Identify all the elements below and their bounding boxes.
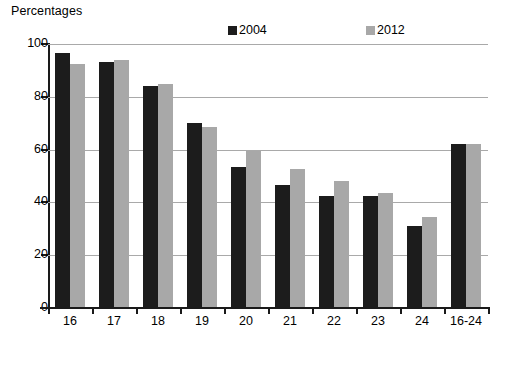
- bar-2012-16: [70, 64, 85, 308]
- chart-legend: 20042012: [228, 22, 438, 38]
- x-tick-mark: [48, 307, 50, 314]
- bar-2012-22: [334, 181, 349, 308]
- x-tick-label: 16-24: [436, 315, 496, 328]
- legend-item-2012: 2012: [366, 22, 405, 38]
- bar-2012-21: [290, 169, 305, 308]
- y-tick-label: 20: [14, 248, 48, 260]
- bar-2004-24: [407, 226, 422, 308]
- bar-2004-19: [187, 123, 202, 308]
- legend-swatch-icon: [366, 26, 375, 35]
- bar-2004-21: [275, 185, 290, 308]
- bar-2004-16-24: [451, 144, 466, 308]
- y-tick-label: 100: [14, 37, 48, 49]
- bar-2004-22: [319, 196, 334, 308]
- y-axis: 020406080100: [0, 0, 48, 365]
- x-tick-mark: [356, 307, 358, 314]
- x-tick-mark: [400, 307, 402, 314]
- x-tick-mark: [224, 307, 226, 314]
- plot-area: [48, 44, 488, 308]
- bar-2004-23: [363, 196, 378, 308]
- bar-2004-20: [231, 167, 246, 308]
- legend-swatch-icon: [228, 26, 237, 35]
- bar-2004-16: [55, 53, 70, 308]
- bar-2012-18: [158, 84, 173, 308]
- bar-2012-19: [202, 127, 217, 308]
- x-tick-mark: [268, 307, 270, 314]
- x-tick-mark: [92, 307, 94, 314]
- y-tick-label: 80: [14, 90, 48, 102]
- x-tick-mark: [180, 307, 182, 314]
- legend-item-2004: 2004: [228, 22, 267, 38]
- x-tick-mark: [136, 307, 138, 314]
- x-tick-mark: [488, 307, 490, 314]
- legend-label: 2012: [377, 24, 405, 37]
- x-tick-mark: [444, 307, 446, 314]
- y-tick-label: 60: [14, 143, 48, 155]
- legend-label: 2004: [239, 24, 267, 37]
- bar-2012-23: [378, 193, 393, 308]
- bar-2012-20: [246, 151, 261, 308]
- y-tick-label: 40: [14, 195, 48, 207]
- bar-2012-17: [114, 60, 129, 308]
- bar-chart: Percentages 20042012 020406080100 161718…: [0, 0, 505, 365]
- x-tick-mark: [312, 307, 314, 314]
- bar-2004-17: [99, 62, 114, 308]
- bar-2012-16-24: [466, 144, 481, 308]
- bar-2012-24: [422, 217, 437, 308]
- x-axis-line: [40, 307, 490, 309]
- bar-2004-18: [143, 86, 158, 308]
- gridline: [48, 44, 488, 45]
